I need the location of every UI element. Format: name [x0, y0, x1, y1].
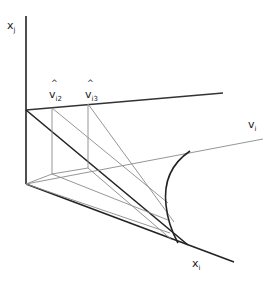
vi-line — [26, 139, 263, 184]
label-xj: xj — [7, 20, 15, 34]
vi3-floor-line — [26, 174, 52, 184]
projection-diagram — [0, 0, 274, 283]
label-vi2: vi2 — [49, 89, 62, 103]
vi2-diagonal — [52, 108, 168, 203]
lower-ray-2 — [88, 168, 172, 240]
vi2-hat: ^ — [51, 79, 58, 88]
label-vi: vi — [248, 119, 256, 133]
lower-ray-1 — [26, 184, 170, 233]
vi3-hat: ^ — [87, 79, 94, 88]
label-vi3: vi3 — [85, 89, 98, 103]
label-xi: xi — [192, 258, 200, 272]
